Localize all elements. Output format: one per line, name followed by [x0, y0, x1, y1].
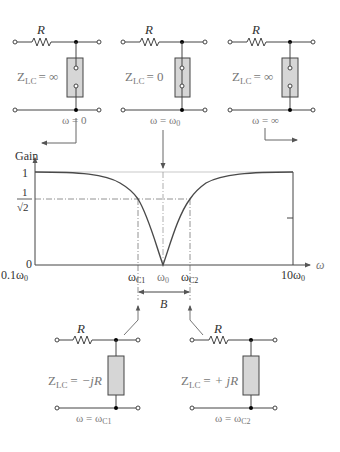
y-axis-label: Gain — [15, 149, 38, 163]
lc-box-icon — [67, 58, 83, 97]
resistor-label: R — [251, 22, 260, 37]
resistor-label: R — [144, 22, 153, 37]
resistor-icon — [32, 38, 51, 46]
z-label: ZLC= ∞ — [232, 69, 273, 86]
diagram-canvas: R ZLC= ∞ ω = 0 R ZLC= 0 ω = ω0 — [0, 0, 340, 452]
gain-chart — [35, 158, 310, 300]
resistor-label: R — [213, 321, 222, 336]
omega-label: ω = ∞ — [252, 114, 279, 126]
y-tick-one: 1 — [22, 166, 28, 180]
lc-box-icon — [108, 356, 124, 395]
top-circuit-short-resonance — [121, 38, 207, 168]
x-axis-label: ω — [316, 258, 324, 272]
resistor-icon — [73, 336, 92, 344]
omega-label: ω = ω0 — [150, 114, 180, 128]
z-label: ZLC= 0 — [125, 69, 164, 86]
y-tick-half-power-num: 1 — [22, 186, 28, 198]
resistor-icon — [140, 38, 159, 46]
z-label: ZLC= −jR — [48, 373, 102, 390]
z-label: ZLC= ∞ — [17, 69, 58, 86]
resistor-icon — [247, 38, 266, 46]
resistor-label: R — [36, 22, 45, 37]
x-tick-wc1: ωC1 — [128, 270, 145, 285]
x-tick-w0: ω0 — [157, 270, 169, 285]
x-tick-wc2: ωC2 — [181, 270, 198, 285]
x-tick-start: 0.1ω0 — [1, 268, 28, 283]
bandwidth-label: B — [160, 297, 168, 311]
resistor-label: R — [76, 321, 85, 336]
top-circuit-open-low — [13, 38, 101, 143]
lc-box-icon — [243, 356, 259, 395]
x-tick-end: 10ω0 — [281, 268, 305, 283]
omega-label: ω = ωC1 — [76, 412, 112, 426]
resistor-icon — [209, 336, 228, 344]
y-tick-zero: 0 — [26, 257, 32, 271]
terminal-icon — [13, 40, 17, 44]
omega-label: ω = 0 — [62, 114, 87, 126]
omega-label: ω = ωC2 — [215, 412, 251, 426]
y-tick-half-power-den: √2 — [17, 201, 29, 213]
gain-curve — [35, 172, 293, 265]
z-label: ZLC= + jR — [181, 373, 238, 390]
notch-filter-diagram: R ZLC= ∞ ω = 0 R ZLC= 0 ω = ω0 — [0, 0, 340, 452]
